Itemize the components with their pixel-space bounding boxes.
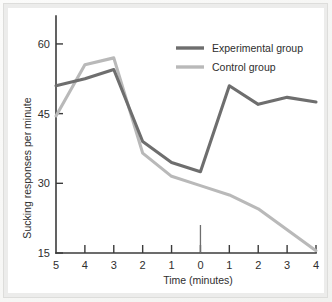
x-tick-label: 4 bbox=[82, 259, 88, 271]
figure-container: Sucking responses per minute 15304560 54… bbox=[0, 0, 332, 302]
x-tick-label: 1 bbox=[168, 259, 174, 271]
x-tick-label: 4 bbox=[313, 259, 319, 271]
y-axis-ticks: 15304560 bbox=[38, 38, 63, 259]
x-tick-label: 5 bbox=[53, 259, 59, 271]
x-tick-label: 2 bbox=[255, 259, 261, 271]
legend-label-control: Control group bbox=[212, 61, 276, 73]
y-tick-label: 30 bbox=[38, 177, 50, 189]
y-tick-label: 15 bbox=[38, 247, 50, 259]
chart-canvas: Sucking responses per minute 15304560 54… bbox=[8, 8, 324, 293]
y-tick-label: 60 bbox=[38, 38, 50, 50]
series-line-control-group bbox=[56, 58, 316, 251]
x-axis-label: Time (minutes) bbox=[163, 274, 233, 286]
x-tick-label: 1 bbox=[226, 259, 232, 271]
x-axis-ticks: 5432101234 bbox=[53, 245, 319, 271]
y-axis-label: Sucking responses per minute bbox=[21, 97, 33, 238]
legend-label-experimental: Experimental group bbox=[212, 42, 303, 54]
line-chart: Sucking responses per minute 15304560 54… bbox=[8, 8, 324, 293]
x-tick-label: 3 bbox=[111, 259, 117, 271]
y-tick-label: 45 bbox=[38, 108, 50, 120]
x-tick-label: 2 bbox=[140, 259, 146, 271]
series-line-experimental-group bbox=[56, 69, 316, 171]
x-tick-label: 0 bbox=[197, 259, 203, 271]
x-tick-label: 3 bbox=[284, 259, 290, 271]
chart-legend: Experimental group Control group bbox=[176, 42, 303, 73]
data-series-layer bbox=[56, 58, 316, 251]
